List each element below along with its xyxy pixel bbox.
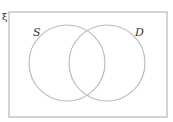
venn-diagram: ξ S D [0, 0, 173, 122]
set-s-label: S [33, 26, 41, 39]
universal-set-label: ξ [2, 11, 8, 22]
set-d-circle [69, 25, 145, 101]
set-d-label: D [134, 26, 144, 39]
